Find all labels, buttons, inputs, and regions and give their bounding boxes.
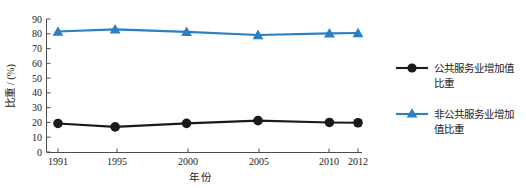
y-tick-label-40: 40 — [32, 87, 42, 98]
y-tick-label-60: 60 — [32, 58, 42, 69]
legend-label-public-line1: 公共服务业增加值 — [434, 62, 515, 74]
data-point-2000 — [182, 119, 192, 129]
y-tick-label-30: 30 — [32, 102, 42, 113]
x-tick-label-2005: 2005 — [249, 156, 269, 167]
x-tick-label-1995: 1995 — [107, 156, 127, 167]
data-point-2005 — [253, 116, 263, 126]
y-tick-label-0: 0 — [37, 147, 42, 158]
chart-figure: 90 80 70 60 50 40 30 20 10 0 比重 / (%) 19… — [0, 0, 526, 188]
y-axis-title: 比重 / (%) — [4, 64, 17, 108]
x-tick-label-1991: 1991 — [48, 156, 68, 167]
y-tick-label-10: 10 — [32, 132, 42, 143]
data-point-2010 — [325, 118, 335, 128]
y-tick-label-80: 80 — [32, 28, 42, 39]
data-point-2012 — [353, 118, 363, 128]
data-point-1991 — [53, 119, 63, 129]
legend-label-nonpublic-line1: 非公共服务业增加 — [434, 108, 514, 120]
y-tick-label-90: 90 — [32, 14, 42, 25]
y-tick-label-20: 20 — [32, 117, 42, 128]
y-tick-label-50: 50 — [32, 73, 42, 84]
x-axis-title: 年 份 — [189, 171, 213, 183]
legend-label-public-line2: 比重 — [434, 77, 454, 89]
x-tick-label-2000: 2000 — [178, 156, 198, 167]
y-tick-label-70: 70 — [32, 43, 42, 54]
data-point-1995 — [110, 122, 120, 132]
legend-label-nonpublic-line2: 值比重 — [434, 123, 464, 135]
line-chart-svg: 90 80 70 60 50 40 30 20 10 0 比重 / (%) 19… — [0, 0, 526, 188]
x-tick-label-2012: 2012 — [348, 156, 368, 167]
x-tick-label-2010: 2010 — [319, 156, 339, 167]
circle-marker-icon — [407, 63, 416, 72]
